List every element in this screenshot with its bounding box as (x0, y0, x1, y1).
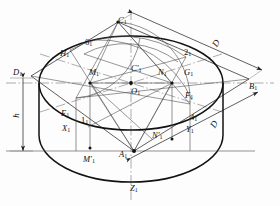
arc-aux-right (96, 40, 192, 100)
vertex-left: D1 (13, 68, 22, 77)
point-2-1: 21 (184, 48, 191, 57)
vertex-bottom: A1 (119, 150, 127, 159)
ext-line-D-upper-b (249, 70, 262, 79)
dot-M1-prime (89, 147, 92, 150)
point-O1: O1 (131, 87, 140, 96)
apex-top: C1 (118, 16, 127, 25)
point-E1: E1 (61, 109, 69, 118)
point-N1-prime: N′1 (152, 131, 163, 140)
construction-D1-F1 (31, 76, 190, 104)
dot-M1 (88, 81, 91, 84)
point-C1-prime: C′1 (131, 64, 142, 73)
vertex-right: B1 (249, 82, 257, 91)
isometric-cylinder-drawing (0, 0, 280, 206)
dot-N1 (170, 81, 173, 84)
drawing-canvas (6, 10, 274, 200)
point-Z1: Z1 (130, 184, 138, 193)
point-X1: X1 (62, 124, 70, 133)
point-G1: G1 (184, 68, 193, 77)
height-label: h (12, 113, 21, 118)
dot-A1 (132, 149, 136, 153)
point-M1-prime: M′1 (83, 155, 95, 164)
point-H1: H1 (60, 49, 69, 58)
point-N1: N1 (158, 68, 167, 77)
dot-N1-prime (171, 138, 174, 141)
point-M1: M1 (89, 68, 99, 77)
dimension-line-D-lower (131, 92, 258, 158)
dot-centre-O1 (129, 81, 133, 85)
point-6-1: 61 (85, 38, 92, 47)
construction-A1-H1 (70, 50, 134, 151)
construction-C1-E1 (76, 22, 118, 98)
construction-C1-F1 (118, 22, 190, 104)
point-F1: F1 (185, 91, 193, 100)
point-1-1: 11 (81, 116, 88, 125)
point-4-1: 41 (190, 113, 197, 122)
point-Y1: Y1 (186, 125, 194, 134)
